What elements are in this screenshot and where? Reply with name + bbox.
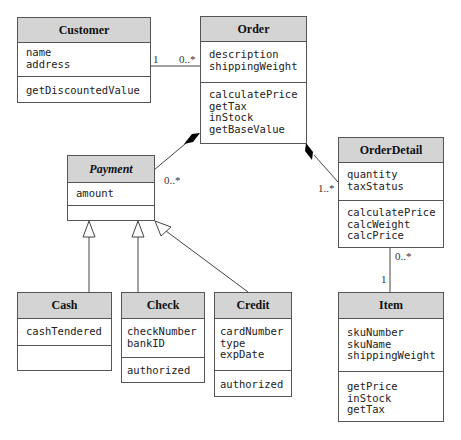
attributes-section: quantity taxStatus	[339, 163, 443, 200]
class-item[interactable]: Item skuNumber skuName shippingWeight ge…	[338, 292, 444, 422]
operations-section: calculatePrice getTax inStock getBaseVal…	[201, 82, 306, 139]
class-customer[interactable]: Customer name address getDiscountedValue	[17, 17, 151, 103]
class-name: Customer	[18, 18, 150, 43]
attribute: expDate	[220, 349, 283, 361]
attributes-section: cashTendered	[18, 319, 111, 345]
composition-diamond-icon	[184, 133, 200, 144]
operation: inStock	[209, 112, 298, 124]
composition-diamond-icon	[305, 143, 313, 160]
class-orderdetail[interactable]: OrderDetail quantity taxStatus calculate…	[338, 137, 444, 248]
operation: authorized	[127, 365, 196, 377]
class-name: OrderDetail	[339, 138, 443, 163]
multiplicity-label: 1	[381, 273, 387, 285]
operation: getPrice	[347, 381, 435, 393]
class-payment[interactable]: Payment amount	[67, 155, 155, 221]
attributes-section: amount	[68, 183, 154, 205]
attribute: quantity	[347, 169, 435, 181]
operation: calculatePrice	[347, 207, 435, 219]
attribute: taxStatus	[347, 181, 435, 193]
attribute: cashTendered	[26, 326, 103, 338]
operations-section: authorized	[122, 357, 204, 381]
attribute: cardNumber	[220, 326, 283, 338]
attribute: name	[26, 47, 142, 59]
multiplicity-label: 1..*	[318, 182, 335, 194]
attribute: shippingWeight	[209, 61, 298, 73]
class-credit[interactable]: Credit cardNumber type expDate authorize…	[214, 292, 292, 397]
attribute: address	[26, 59, 142, 71]
composition-order-orderdetail	[314, 155, 338, 182]
operation: getTax	[347, 404, 435, 416]
attributes-section: name address	[18, 43, 150, 76]
class-check[interactable]: Check checkNumber bankID authorized	[121, 292, 205, 383]
multiplicity-label: 0..*	[164, 174, 181, 186]
operations-section	[18, 345, 111, 370]
operation: calculatePrice	[209, 89, 298, 101]
operation: calcPrice	[347, 230, 435, 242]
multiplicity-label: 0..*	[179, 53, 196, 65]
attributes-section: cardNumber type expDate	[215, 319, 291, 370]
class-name: Cash	[18, 293, 111, 319]
operation: authorized	[220, 379, 283, 391]
multiplicity-label: 0..*	[395, 250, 412, 262]
class-name: Check	[122, 293, 204, 319]
operations-section: getPrice inStock getTax	[339, 371, 443, 420]
class-name: Credit	[215, 293, 291, 319]
operations-section: authorized	[215, 370, 291, 395]
operations-section: getDiscountedValue	[18, 76, 150, 101]
inheritance-triangle-icon	[155, 221, 171, 236]
attribute: amount	[76, 188, 146, 200]
class-cash[interactable]: Cash cashTendered	[17, 292, 112, 371]
attribute: description	[209, 49, 298, 61]
attributes-section: skuNumber skuName shippingWeight	[339, 319, 443, 371]
inheritance-triangle-icon	[132, 221, 144, 237]
operations-section: calculatePrice calcWeight calcPrice	[339, 200, 443, 246]
attribute: skuNumber	[347, 327, 435, 339]
operation: getDiscountedValue	[26, 85, 142, 97]
class-name: Item	[339, 293, 443, 319]
attributes-section: description shippingWeight	[201, 42, 306, 82]
multiplicity-label: 1	[153, 53, 159, 65]
attribute: shippingWeight	[347, 350, 435, 362]
class-name: Payment	[68, 156, 154, 183]
class-order[interactable]: Order description shippingWeight calcula…	[200, 16, 307, 144]
attribute: bankID	[127, 338, 196, 350]
attribute: checkNumber	[127, 326, 196, 338]
operation: getBaseValue	[209, 124, 298, 136]
generalization-credit-payment	[166, 231, 248, 292]
operations-section	[68, 205, 154, 220]
inheritance-triangle-icon	[83, 221, 95, 237]
class-name: Order	[201, 17, 306, 42]
attributes-section: checkNumber bankID	[122, 319, 204, 357]
